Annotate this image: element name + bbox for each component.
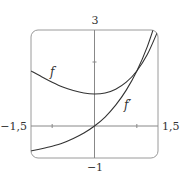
f-prime-label: f′ — [123, 98, 131, 112]
y-min-label: −1 — [87, 161, 103, 174]
chart: 3 −1 −1,5 1,5 f f′ — [0, 0, 189, 181]
y-max-label: 3 — [92, 14, 99, 27]
f-label: f — [49, 65, 57, 79]
x-min-label: −1,5 — [0, 120, 27, 133]
x-max-label: 1,5 — [162, 120, 180, 133]
